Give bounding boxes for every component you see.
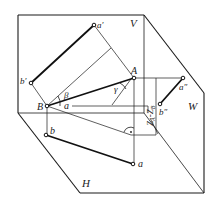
point-markers bbox=[29, 23, 185, 166]
construction-B-rightangle bbox=[47, 106, 131, 135]
right-angle-arc bbox=[124, 127, 134, 132]
beta-arc bbox=[58, 96, 60, 106]
projector-aprime-A bbox=[94, 25, 134, 78]
label-a2: a″ bbox=[179, 82, 188, 92]
point-b2 bbox=[158, 102, 162, 106]
dim-z-a: ZA-ZB bbox=[145, 105, 156, 126]
label-plane-W: W bbox=[188, 100, 198, 112]
line-b-a-horizontal bbox=[46, 135, 133, 164]
point-b bbox=[44, 133, 48, 137]
projection-lines bbox=[31, 25, 183, 164]
construction-B-parallel bbox=[47, 48, 111, 106]
point-aprime bbox=[92, 23, 96, 27]
labels: V W H a′ b′ A B a b a a″ b″ β γ ZA-ZB bbox=[20, 17, 198, 189]
label-plane-H: H bbox=[81, 177, 91, 189]
label-beta: β bbox=[63, 90, 69, 100]
construction-lines bbox=[31, 25, 183, 164]
label-A: A bbox=[130, 65, 138, 76]
point-A bbox=[132, 76, 136, 80]
label-plane-V: V bbox=[130, 17, 138, 29]
label-b: b bbox=[50, 125, 55, 136]
h-plane-left-edge bbox=[18, 113, 80, 193]
point-B bbox=[45, 104, 49, 108]
label-gamma: γ bbox=[114, 84, 118, 94]
dimension-label-zdiff: ZA-ZB bbox=[145, 105, 156, 126]
gamma-arc bbox=[120, 83, 126, 89]
w-plane-top-edge bbox=[144, 15, 204, 93]
label-bprime: b′ bbox=[20, 76, 28, 86]
label-B: B bbox=[37, 101, 43, 112]
point-bprime bbox=[29, 81, 33, 85]
label-a-inner: a bbox=[64, 100, 69, 111]
projection-diagram: V W H a′ b′ A B a b a a″ b″ β γ ZA-ZB bbox=[0, 0, 217, 207]
point-a bbox=[131, 162, 135, 166]
label-b2: b″ bbox=[159, 107, 168, 117]
point-a2 bbox=[181, 76, 185, 80]
line-aprime-bprime bbox=[31, 25, 94, 83]
label-aprime: a′ bbox=[97, 20, 105, 30]
label-a: a bbox=[138, 158, 143, 169]
right-angle-dot bbox=[130, 131, 132, 133]
